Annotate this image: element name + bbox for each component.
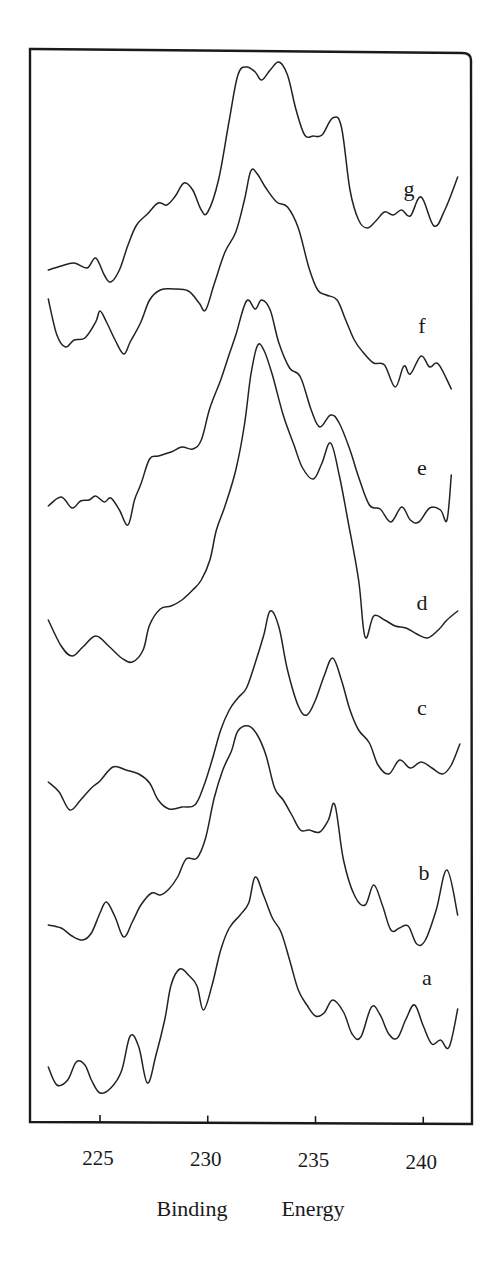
- spectrum-curve-a: [48, 877, 457, 1093]
- spectrum-curve-b: [48, 726, 457, 946]
- xps-spectra-chart: gfedcba 225230235240 Binding Energy: [0, 0, 504, 1263]
- spectrum-curve-e: [48, 300, 451, 525]
- x-tick-label-225: 225: [82, 1146, 114, 1170]
- spectrum-curve-c: [48, 611, 460, 810]
- spectra-curves: [48, 62, 460, 1093]
- spectrum-curve-f: [48, 169, 451, 389]
- curve-label-e: e: [417, 455, 427, 480]
- curve-label-g: g: [404, 176, 415, 201]
- curve-label-d: d: [417, 590, 428, 615]
- x-axis-label-binding: Binding: [157, 1196, 228, 1221]
- x-axis-label-energy: Energy: [281, 1196, 344, 1221]
- spectrum-curve-g: [48, 62, 457, 282]
- spectrum-curve-d: [48, 344, 457, 663]
- x-axis-tick-labels: 225230235240: [82, 1146, 437, 1174]
- x-tick-label-230: 230: [190, 1147, 222, 1171]
- curve-label-a: a: [422, 965, 432, 990]
- curve-label-c: c: [417, 695, 427, 720]
- x-tick-label-240: 240: [406, 1150, 438, 1174]
- x-tick-label-235: 235: [298, 1148, 330, 1172]
- curve-label-f: f: [418, 313, 426, 338]
- plot-frame: [30, 49, 472, 1124]
- curve-labels: gfedcba: [404, 176, 433, 990]
- curve-label-b: b: [419, 860, 430, 885]
